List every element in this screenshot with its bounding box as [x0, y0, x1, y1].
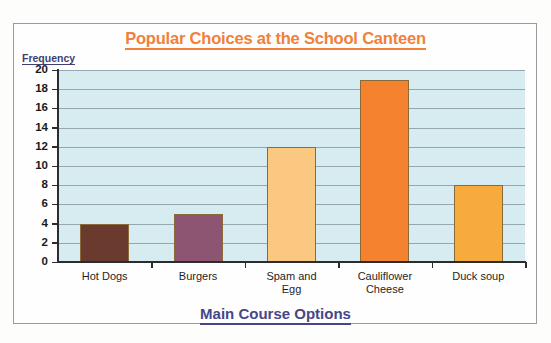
plot-area — [58, 70, 525, 262]
x-axis-category-label: CauliflowerCheese — [338, 270, 431, 296]
x-axis-category-label-line1: Cauliflower — [338, 270, 431, 283]
y-axis-tick-label: 10 — [18, 159, 48, 171]
bar-spam-and-egg — [267, 147, 316, 262]
y-axis-tick-label: 4 — [18, 217, 48, 229]
y-axis-tick-label: 12 — [18, 140, 48, 152]
x-axis-category-label-line2: Cheese — [338, 283, 431, 296]
y-axis-tick-label: 14 — [18, 121, 48, 133]
y-axis-tick-label: 0 — [18, 255, 48, 267]
x-axis-category-label-line2: Egg — [245, 283, 338, 296]
y-axis-tick — [52, 223, 58, 225]
x-axis-category-label-line1: Hot Dogs — [58, 270, 151, 283]
y-axis-tick — [52, 70, 58, 72]
gridline — [58, 108, 525, 109]
chart-title: Popular Choices at the School Canteen — [0, 29, 551, 48]
bar-burgers — [174, 214, 223, 262]
y-axis-tick — [52, 89, 58, 91]
bar-hot-dogs — [80, 224, 129, 262]
y-axis-tick — [52, 242, 58, 244]
x-axis-tick — [525, 262, 527, 268]
x-axis-category-label: Burgers — [151, 270, 244, 283]
x-axis-category-label-line1: Burgers — [151, 270, 244, 283]
gridline — [58, 70, 525, 71]
gridline — [58, 89, 525, 90]
bar-cauliflower-cheese — [360, 80, 409, 262]
x-axis-line — [57, 261, 526, 263]
y-axis-tick — [52, 146, 58, 148]
plot-area-wrapper — [58, 70, 525, 262]
y-axis-tick — [52, 262, 58, 264]
gridline — [58, 128, 525, 129]
y-axis-tick-label: 6 — [18, 197, 48, 209]
x-axis-category-label: Hot Dogs — [58, 270, 151, 283]
x-axis-category-label-line1: Spam and — [245, 270, 338, 283]
y-axis-tick-label: 20 — [18, 63, 48, 75]
y-axis-tick — [52, 108, 58, 110]
x-axis-title: Main Course Options — [0, 305, 551, 322]
x-axis-category-label: Duck soup — [432, 270, 525, 283]
x-axis-category-label: Spam andEgg — [245, 270, 338, 296]
y-axis-tick — [52, 127, 58, 129]
bar-duck-soup — [454, 185, 503, 262]
y-axis-tick-label: 18 — [18, 82, 48, 94]
x-axis-tick — [432, 262, 434, 268]
y-axis-tick-label: 16 — [18, 101, 48, 113]
y-axis-tick — [52, 204, 58, 206]
x-axis-title-text: Main Course Options — [200, 305, 351, 325]
x-axis-category-label-line1: Duck soup — [432, 270, 525, 283]
x-axis-tick — [151, 262, 153, 268]
y-axis-tick-label: 8 — [18, 178, 48, 190]
chart-title-text: Popular Choices at the School Canteen — [125, 29, 426, 50]
x-axis-tick — [245, 262, 247, 268]
x-axis-tick — [338, 262, 340, 268]
y-axis-tick-label: 2 — [18, 236, 48, 248]
y-axis-tick — [52, 185, 58, 187]
chart-page: Popular Choices at the School Canteen Fr… — [0, 0, 551, 343]
y-axis-tick — [52, 166, 58, 168]
